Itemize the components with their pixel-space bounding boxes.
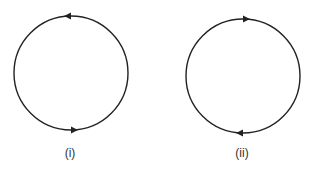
arrow-left-icon	[236, 130, 243, 137]
circle-ii	[186, 19, 300, 133]
arrow-left-icon	[64, 13, 71, 20]
label-ii: (ii)	[235, 146, 248, 160]
arrow-right-icon	[243, 16, 250, 23]
circle-i	[14, 16, 128, 130]
diagram-canvas	[0, 0, 316, 170]
loop-ii	[186, 16, 300, 137]
label-i: (i)	[65, 146, 76, 160]
arrow-right-icon	[71, 127, 78, 134]
loop-i	[14, 13, 128, 134]
